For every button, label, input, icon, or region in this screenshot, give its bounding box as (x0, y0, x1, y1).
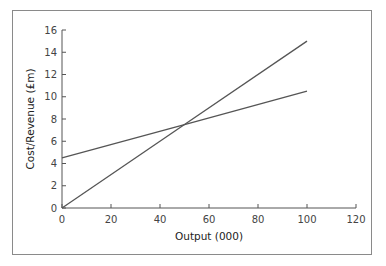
x-axis-title: Output (000) (175, 230, 243, 242)
series-lines (62, 41, 307, 208)
axes (62, 30, 356, 208)
x-tick-label: 20 (105, 214, 118, 225)
y-tick-label: 16 (44, 25, 57, 36)
x-axis-ticks: 020406080100120 (59, 204, 366, 225)
y-tick-label: 6 (51, 136, 57, 147)
y-tick-label: 2 (51, 180, 57, 191)
y-tick-label: 4 (51, 158, 57, 169)
y-tick-label: 12 (44, 69, 57, 80)
x-tick-label: 80 (252, 214, 265, 225)
x-tick-label: 0 (59, 214, 65, 225)
y-tick-label: 0 (51, 203, 57, 214)
y-tick-label: 14 (44, 47, 57, 58)
line-chart: 020406080100120 0246810121416 Output (00… (0, 0, 386, 266)
y-tick-label: 8 (51, 114, 57, 125)
x-tick-label: 100 (297, 214, 316, 225)
y-axis-title: Cost/Revenue (£m) (24, 68, 36, 169)
x-tick-label: 120 (346, 214, 365, 225)
x-tick-label: 60 (203, 214, 216, 225)
series-line-2 (62, 41, 307, 208)
y-tick-label: 10 (44, 91, 57, 102)
y-axis-ticks: 0246810121416 (44, 25, 66, 214)
x-tick-label: 40 (154, 214, 167, 225)
